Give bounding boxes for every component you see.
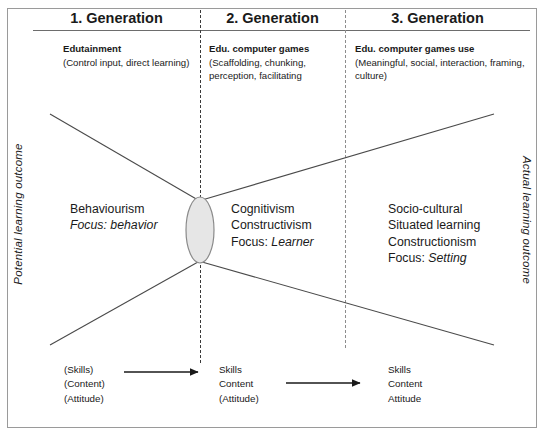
- outcome-item: Content: [219, 377, 259, 391]
- descriptor-sub-2: (Scaffolding, chunking, perception, faci…: [209, 56, 347, 83]
- descriptor-sub-1: (Control input, direct learning): [63, 56, 198, 70]
- heading-generation-2: 2. Generation: [200, 10, 345, 26]
- outcome-item: (Attitude): [219, 392, 259, 406]
- focus-label-3: Focus:: [388, 251, 425, 265]
- heading-generation-3: 3. Generation: [345, 10, 530, 26]
- descriptor-title-1: Edutainment: [63, 42, 198, 56]
- focus-value-2: Learner: [271, 235, 313, 249]
- theory-block-generation-2: Cognitivism Constructivism Focus: Learne…: [231, 201, 314, 250]
- theory-line-3-0: Socio-cultural: [388, 201, 480, 217]
- outcome-list-generation-2: Skills Content (Attitude): [219, 363, 259, 406]
- focus-line-2: Focus: Learner: [231, 234, 314, 250]
- outcome-item: (Skills): [64, 363, 105, 377]
- outcome-item: Content: [388, 377, 422, 391]
- outcome-item: (Attitude): [64, 392, 105, 406]
- outcome-list-generation-3: Skills Content Attitude: [388, 363, 422, 406]
- column-divider-1: [200, 10, 201, 363]
- theory-line-2-1: Constructivism: [231, 217, 314, 233]
- header-divider-rule: [33, 30, 530, 31]
- outcome-item: Skills: [219, 363, 259, 377]
- focus-value-1: behavior: [110, 218, 157, 232]
- theory-line-3-1: Situated learning: [388, 217, 480, 233]
- descriptor-generation-1: Edutainment (Control input, direct learn…: [63, 42, 198, 69]
- descriptor-title-2: Edu. computer games: [209, 42, 347, 56]
- descriptor-generation-2: Edu. computer games (Scaffolding, chunki…: [209, 42, 347, 83]
- outcome-item: (Content): [64, 377, 105, 391]
- heading-generation-1: 1. Generation: [33, 10, 200, 26]
- theory-line-2-0: Cognitivism: [231, 201, 314, 217]
- outcome-item: Attitude: [388, 392, 422, 406]
- theory-block-generation-1: Behaviourism Focus: behavior: [70, 201, 158, 234]
- focus-label-1: Focus:: [70, 218, 107, 232]
- axis-label-potential-learning-outcome: Potential learning outcome: [12, 134, 24, 294]
- theory-block-generation-3: Socio-cultural Situated learning Constru…: [388, 201, 480, 266]
- outcome-item: Skills: [388, 363, 422, 377]
- focus-line-1: Focus: behavior: [70, 217, 158, 233]
- descriptor-sub-3: (Meaningful, social, interaction, framin…: [355, 56, 530, 83]
- axis-label-actual-learning-outcome: Actual learning outcome: [521, 140, 533, 300]
- focus-value-3: Setting: [428, 251, 466, 265]
- focus-line-3: Focus: Setting: [388, 250, 480, 266]
- outcome-list-generation-1: (Skills) (Content) (Attitude): [64, 363, 105, 406]
- theory-line-1-0: Behaviourism: [70, 201, 158, 217]
- theory-line-3-2: Constructionism: [388, 234, 480, 250]
- descriptor-title-3: Edu. computer games use: [355, 42, 530, 56]
- focus-label-2: Focus:: [231, 235, 268, 249]
- diagram-figure: Potential learning outcome Actual learni…: [0, 0, 545, 439]
- descriptor-generation-3: Edu. computer games use (Meaningful, soc…: [355, 42, 530, 83]
